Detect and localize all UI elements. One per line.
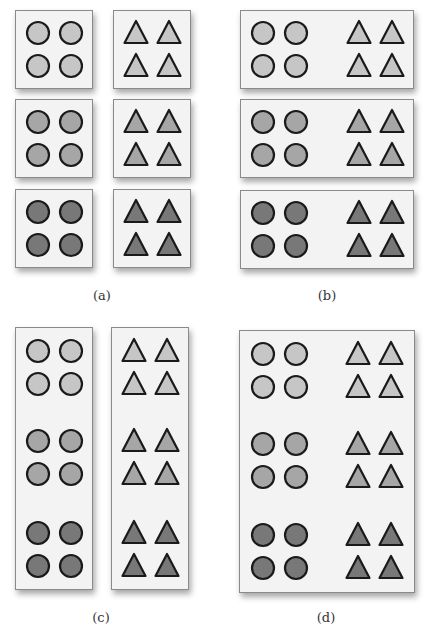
light-triangle-icon <box>155 52 183 80</box>
light-circle-icon <box>57 370 85 398</box>
light-circle-icon <box>249 373 277 401</box>
light-circle-icon <box>24 19 52 47</box>
light-circle-icon <box>57 19 85 47</box>
light-circle-icon <box>249 52 277 80</box>
dark-circle-icon <box>282 521 310 549</box>
mid-circle-icon <box>282 141 310 169</box>
dark-circle-icon <box>24 198 52 226</box>
dark-triangle-icon <box>122 198 150 226</box>
mid-circle-icon <box>249 141 277 169</box>
mid-circle-icon <box>24 427 52 455</box>
dark-triangle-icon <box>153 519 181 547</box>
light-triangle-icon <box>122 19 150 47</box>
mid-triangle-icon <box>345 141 373 169</box>
dark-triangle-icon <box>155 198 183 226</box>
dark-triangle-icon <box>345 232 373 260</box>
light-circle-icon <box>57 52 85 80</box>
dark-circle-icon <box>57 198 85 226</box>
dark-circle-icon <box>249 199 277 227</box>
mid-triangle-icon <box>120 427 148 455</box>
panel-caption: (b) <box>318 288 336 303</box>
dark-triangle-icon <box>153 552 181 580</box>
mid-circle-icon <box>249 108 277 136</box>
light-circle-icon <box>57 337 85 365</box>
mid-triangle-icon <box>120 460 148 488</box>
light-circle-icon <box>249 19 277 47</box>
dark-circle-icon <box>249 232 277 260</box>
light-triangle-icon <box>344 340 372 368</box>
light-circle-icon <box>24 52 52 80</box>
dark-triangle-icon <box>377 521 405 549</box>
mid-triangle-icon <box>344 463 372 491</box>
light-triangle-icon <box>153 370 181 398</box>
light-circle-icon <box>282 52 310 80</box>
dark-triangle-icon <box>120 552 148 580</box>
mid-triangle-icon <box>345 108 373 136</box>
dark-circle-icon <box>24 231 52 259</box>
light-triangle-icon <box>378 19 406 47</box>
light-triangle-icon <box>377 340 405 368</box>
light-circle-icon <box>282 340 310 368</box>
panel-caption: (c) <box>92 610 109 625</box>
mid-circle-icon <box>282 108 310 136</box>
light-triangle-icon <box>153 337 181 365</box>
dark-triangle-icon <box>155 231 183 259</box>
dark-circle-icon <box>24 519 52 547</box>
light-triangle-icon <box>120 370 148 398</box>
dark-circle-icon <box>282 232 310 260</box>
mid-circle-icon <box>57 427 85 455</box>
mid-circle-icon <box>282 463 310 491</box>
light-triangle-icon <box>345 52 373 80</box>
mid-triangle-icon <box>377 463 405 491</box>
mid-circle-icon <box>24 141 52 169</box>
dark-circle-icon <box>24 552 52 580</box>
light-circle-icon <box>24 337 52 365</box>
mid-triangle-icon <box>155 141 183 169</box>
dark-triangle-icon <box>377 554 405 582</box>
mid-triangle-icon <box>155 108 183 136</box>
mid-circle-icon <box>282 430 310 458</box>
light-triangle-icon <box>122 52 150 80</box>
mid-triangle-icon <box>378 108 406 136</box>
dark-circle-icon <box>249 554 277 582</box>
dark-triangle-icon <box>345 199 373 227</box>
mid-circle-icon <box>57 108 85 136</box>
mid-triangle-icon <box>378 141 406 169</box>
mid-circle-icon <box>24 460 52 488</box>
dark-circle-icon <box>57 552 85 580</box>
dark-circle-icon <box>57 519 85 547</box>
dark-circle-icon <box>282 199 310 227</box>
dark-circle-icon <box>282 554 310 582</box>
dark-triangle-icon <box>378 199 406 227</box>
dark-circle-icon <box>249 521 277 549</box>
dark-circle-icon <box>57 231 85 259</box>
mid-circle-icon <box>57 141 85 169</box>
light-circle-icon <box>282 19 310 47</box>
dark-triangle-icon <box>378 232 406 260</box>
panel-caption: (a) <box>93 288 111 303</box>
light-triangle-icon <box>155 19 183 47</box>
light-circle-icon <box>249 340 277 368</box>
dark-triangle-icon <box>122 231 150 259</box>
light-triangle-icon <box>344 373 372 401</box>
light-triangle-icon <box>345 19 373 47</box>
light-circle-icon <box>282 373 310 401</box>
mid-triangle-icon <box>153 427 181 455</box>
mid-triangle-icon <box>344 430 372 458</box>
mid-triangle-icon <box>153 460 181 488</box>
light-triangle-icon <box>120 337 148 365</box>
mid-circle-icon <box>249 430 277 458</box>
mid-triangle-icon <box>122 141 150 169</box>
mid-circle-icon <box>57 460 85 488</box>
light-triangle-icon <box>378 52 406 80</box>
mid-triangle-icon <box>122 108 150 136</box>
dark-triangle-icon <box>120 519 148 547</box>
dark-triangle-icon <box>344 554 372 582</box>
dark-triangle-icon <box>344 521 372 549</box>
panel-caption: (d) <box>317 610 335 625</box>
light-circle-icon <box>24 370 52 398</box>
mid-circle-icon <box>24 108 52 136</box>
mid-triangle-icon <box>377 430 405 458</box>
light-triangle-icon <box>377 373 405 401</box>
mid-circle-icon <box>249 463 277 491</box>
